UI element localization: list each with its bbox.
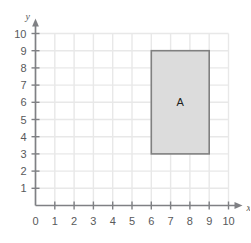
x-tick-label: 8 bbox=[187, 215, 193, 227]
y-tick-label: 5 bbox=[20, 114, 26, 126]
x-tick-label: 6 bbox=[148, 215, 154, 227]
y-tick-label: 1 bbox=[20, 182, 26, 194]
y-axis-arrowhead bbox=[32, 19, 39, 27]
shape-label-a: A bbox=[177, 96, 185, 108]
x-tick-label: 9 bbox=[206, 215, 212, 227]
axes bbox=[32, 19, 242, 209]
y-tick-label: 6 bbox=[20, 96, 26, 108]
y-tick-label: 4 bbox=[20, 131, 26, 143]
x-tick-label: 3 bbox=[90, 215, 96, 227]
x-tick-label: 10 bbox=[222, 215, 234, 227]
x-axis-name: x bbox=[246, 202, 251, 213]
y-axis-name: y bbox=[25, 11, 31, 22]
x-tick-label: 1 bbox=[52, 215, 58, 227]
y-tick-label: 10 bbox=[14, 28, 26, 40]
x-tick-label: 7 bbox=[168, 215, 174, 227]
y-tick-label: 3 bbox=[20, 148, 26, 160]
coordinate-grid-figure: A 01234567891012345678910xy bbox=[0, 0, 250, 243]
y-tick-label: 7 bbox=[20, 79, 26, 91]
y-tick-label: 8 bbox=[20, 62, 26, 74]
x-tick-label: 2 bbox=[71, 215, 77, 227]
x-axis-arrowhead bbox=[235, 202, 243, 209]
y-tick-label: 9 bbox=[20, 45, 26, 57]
x-tick-label: 5 bbox=[129, 215, 135, 227]
y-tick-label: 2 bbox=[20, 165, 26, 177]
coordinate-plane: A 01234567891012345678910xy bbox=[0, 0, 250, 243]
x-tick-label: 0 bbox=[32, 215, 38, 227]
plotted-shapes: A bbox=[151, 51, 209, 154]
x-tick-label: 4 bbox=[110, 215, 116, 227]
